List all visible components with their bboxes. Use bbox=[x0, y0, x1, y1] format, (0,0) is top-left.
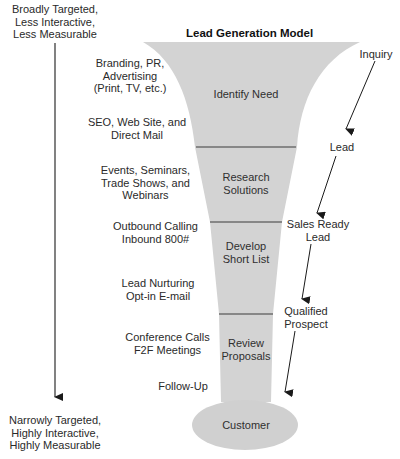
axis-bottom-label: Narrowly Targeted, Highly Interactive, H… bbox=[0, 414, 110, 452]
lead-state-sales-ready: Sales Ready Lead bbox=[283, 218, 353, 243]
stage-line: Proposals bbox=[206, 350, 286, 363]
lead-state-line: Lead bbox=[283, 231, 353, 244]
tactic-line: SEO, Web Site, and bbox=[82, 116, 192, 129]
stage-review-proposals: Review Proposals bbox=[206, 337, 286, 362]
tactic-line: Opt-in E-mail bbox=[118, 290, 198, 303]
tactic-branding: Branding, PR, Advertising (Print, TV, et… bbox=[80, 57, 180, 95]
stage-identify-need: Identify Need bbox=[196, 88, 296, 101]
diagram-title: Lead Generation Model bbox=[186, 27, 313, 39]
tactic-line: Direct Mail bbox=[82, 129, 192, 142]
tactic-line: Follow-Up bbox=[148, 380, 218, 393]
lead-state-line: Qualified bbox=[276, 305, 336, 318]
tactic-line: Inbound 800# bbox=[108, 233, 203, 246]
lead-state-line: Sales Ready bbox=[283, 218, 353, 231]
tactic-line: Webinars bbox=[98, 189, 193, 202]
stage-line: Develop bbox=[206, 240, 286, 253]
stage-line: Solutions bbox=[206, 184, 286, 197]
lead-state-inquiry: Inquiry bbox=[352, 48, 400, 61]
stage-customer: Customer bbox=[206, 419, 286, 432]
tactic-line: Events, Seminars, bbox=[98, 164, 193, 177]
axis-bottom-line: Highly Measurable bbox=[0, 439, 110, 452]
tactic-line: (Print, TV, etc.) bbox=[80, 82, 180, 95]
axis-top-label: Broadly Targeted, Less Interactive, Less… bbox=[0, 3, 110, 41]
lead-state-qualified-prospect: Qualified Prospect bbox=[276, 305, 336, 330]
tactic-line: F2F Meetings bbox=[120, 344, 215, 357]
arrow-sales-ready-to-qualified bbox=[302, 244, 311, 299]
arrow-qualified-to-customer bbox=[285, 331, 295, 392]
stage-line: Identify Need bbox=[196, 88, 296, 101]
tactic-nurturing: Lead Nurturing Opt-in E-mail bbox=[118, 277, 198, 302]
tactic-line: Branding, PR, bbox=[80, 57, 180, 70]
tactic-conference: Conference Calls F2F Meetings bbox=[120, 331, 215, 356]
lead-state-line: Prospect bbox=[276, 318, 336, 331]
lead-state-lead: Lead bbox=[322, 141, 362, 154]
tactic-line: Outbound Calling bbox=[108, 220, 203, 233]
tactic-line: Lead Nurturing bbox=[118, 277, 198, 290]
axis-bottom-line: Narrowly Targeted, bbox=[0, 414, 110, 427]
axis-top-line: Broadly Targeted, bbox=[0, 3, 110, 16]
tactic-line: Conference Calls bbox=[120, 331, 215, 344]
stage-line: Research bbox=[206, 171, 286, 184]
arrow-lead-to-sales-ready bbox=[317, 156, 336, 213]
lead-state-line: Inquiry bbox=[352, 48, 400, 61]
stage-line: Customer bbox=[206, 419, 286, 432]
axis-top-line: Less Measurable bbox=[0, 28, 110, 41]
tactic-calling: Outbound Calling Inbound 800# bbox=[108, 220, 203, 245]
stage-develop-short-list: Develop Short List bbox=[206, 240, 286, 265]
tactic-line: Trade Shows, and bbox=[98, 177, 193, 190]
axis-bottom-line: Highly Interactive, bbox=[0, 427, 110, 440]
tactic-seo: SEO, Web Site, and Direct Mail bbox=[82, 116, 192, 141]
stage-line: Short List bbox=[206, 253, 286, 266]
stage-research-solutions: Research Solutions bbox=[206, 171, 286, 196]
tactic-events: Events, Seminars, Trade Shows, and Webin… bbox=[98, 164, 193, 202]
tactic-line: Advertising bbox=[80, 70, 180, 83]
axis-top-line: Less Interactive, bbox=[0, 16, 110, 29]
tactic-follow-up: Follow-Up bbox=[148, 380, 218, 393]
lead-state-line: Lead bbox=[322, 141, 362, 154]
stage-line: Review bbox=[206, 337, 286, 350]
arrow-inquiry-to-lead bbox=[346, 61, 375, 129]
